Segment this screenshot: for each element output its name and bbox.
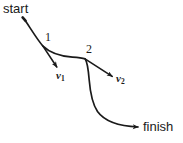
trajectory-figure: start finish 1 2 v1 v2 — [0, 0, 183, 143]
v1-subscript: 1 — [61, 74, 65, 83]
point-2-label: 2 — [86, 43, 92, 55]
finish-label: finish — [143, 120, 173, 133]
velocity-vector-2-label: v2 — [116, 73, 125, 84]
v2-subscript: 2 — [121, 77, 125, 86]
start-label: start — [3, 2, 28, 15]
velocity-vector-1-arrow — [43, 46, 57, 67]
velocity-vector-1-label: v1 — [56, 70, 65, 81]
point-1-label: 1 — [45, 31, 51, 43]
